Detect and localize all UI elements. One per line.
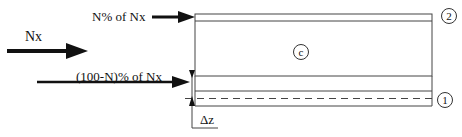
layer-2-marker: 2 [441, 8, 457, 24]
nx-force-arrow [7, 43, 88, 59]
core-layer-marker: c [293, 44, 309, 60]
top-force-arrow [152, 11, 195, 23]
top-force-label: N% of Nx [92, 10, 145, 24]
nx-force-label: Nx [25, 30, 42, 44]
delta-z-label: Δz [200, 113, 214, 127]
laminate-diagram [0, 0, 462, 137]
bottom-force-label: (100-N)% of Nx [76, 70, 162, 84]
layer-1-marker: 1 [437, 92, 453, 108]
panel [185, 14, 432, 106]
